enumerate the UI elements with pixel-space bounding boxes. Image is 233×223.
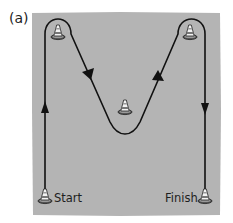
course-svg [0,0,233,223]
start-label: Start [54,193,82,205]
panel-label: (a) [9,11,29,25]
course-diagram: (a) Start Finish [0,0,233,223]
finish-label: Finish [165,193,198,205]
